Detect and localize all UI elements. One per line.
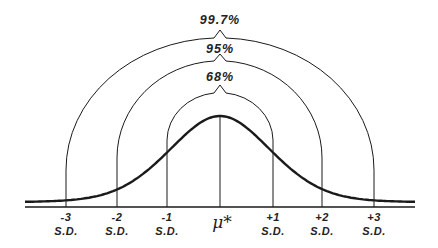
- tick-plus-2-value: +2: [315, 211, 329, 223]
- tick-minus-2-value: -2: [112, 211, 123, 223]
- tick-plus-1-unit: S.D.: [261, 225, 284, 237]
- label-68: 68%: [206, 70, 234, 84]
- tick-minus-1-value: -1: [162, 211, 173, 223]
- normal-distribution-diagram: 99.7% 95% 68% -3 S.D. -2 S.D. -1 S.D. +1…: [0, 0, 438, 248]
- tick-plus-3-unit: S.D.: [362, 225, 385, 237]
- label-95: 95%: [206, 42, 234, 56]
- tick-minus-2-unit: S.D.: [105, 225, 128, 237]
- tick-plus-2-unit: S.D.: [310, 225, 333, 237]
- label-99-7: 99.7%: [200, 13, 240, 27]
- tick-minus-3-unit: S.D.: [54, 225, 77, 237]
- tick-plus-3-value: +3: [367, 211, 381, 223]
- tick-plus-1-value: +1: [266, 211, 280, 223]
- tick-minus-3-value: -3: [61, 211, 72, 223]
- diagram-canvas: 99.7% 95% 68% -3 S.D. -2 S.D. -1 S.D. +1…: [0, 0, 438, 248]
- tick-minus-1-unit: S.D.: [155, 225, 178, 237]
- mean-label: μ*: [212, 212, 232, 232]
